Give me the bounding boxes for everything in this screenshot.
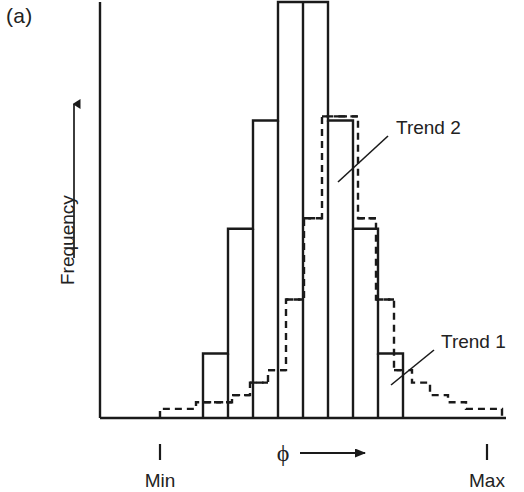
solid-histogram-bin-dividers [203,2,403,418]
y-axis-group: Frequency [57,104,78,285]
x-axis-symbol: ϕ [277,440,290,466]
x-tick-max-label: Max [469,470,505,491]
x-tick-min-label: Min [145,470,176,491]
annotation-trend-1: Trend 1 [391,331,506,385]
trend-2-label: Trend 2 [396,117,461,138]
trend-2-leader-line [338,136,388,182]
annotation-trend-2: Trend 2 [338,117,461,182]
trend-1-label: Trend 1 [441,331,506,352]
series-trend1-dashed [160,116,502,418]
x-axis-group: Min Max ϕ [145,440,506,491]
figure-panel: (a) Frequency Min Max ϕ [0,0,524,492]
series-trend2-solid [203,2,403,418]
y-axis-title: Frequency [57,195,78,285]
histogram-plot: Frequency Min Max ϕ Trend 2 Trend 1 [0,0,524,492]
dashed-histogram-outline [160,116,502,418]
